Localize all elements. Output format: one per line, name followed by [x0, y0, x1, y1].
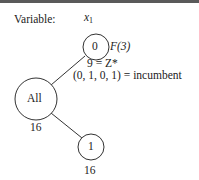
branch-and-bound-tree: Variable: x1 0 F(3) 9 = Z* (0, 1, 0, 1) … [0, 0, 199, 180]
node-1-label: 1 [88, 141, 94, 153]
variable-label: Variable: [14, 14, 56, 26]
edge-root-to-1 [51, 113, 82, 138]
node-0-annotation: F(3) [110, 41, 130, 53]
node-1-bound: 16 [84, 165, 96, 177]
variable-name: x1 [84, 12, 93, 25]
node-0-z-value: 9 = Z* [87, 58, 118, 70]
node-0-label: 0 [92, 41, 98, 53]
node-all-label: All [27, 93, 42, 105]
tree-graphics [0, 0, 199, 180]
node-0-incumbent: (0, 1, 0, 1) = incumbent [73, 70, 182, 82]
node-all-bound: 16 [30, 122, 42, 134]
